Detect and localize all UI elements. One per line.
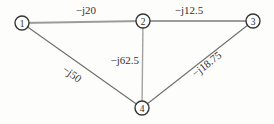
edge-label-2-3: −j12.5 bbox=[175, 4, 204, 16]
network-diagram: 1 2 3 4 −j20 −j12.5 −j62.5 −j50 −j18.75 bbox=[0, 0, 274, 124]
edge-label-3-4: −j18.75 bbox=[189, 48, 224, 79]
edge-2-4 bbox=[142, 21, 143, 108]
node-label-2: 2 bbox=[141, 17, 146, 27]
node-label-1: 1 bbox=[20, 19, 25, 29]
edge-label-2-4: −j62.5 bbox=[110, 54, 139, 66]
figure-canvas: 1 2 3 4 −j20 −j12.5 −j62.5 −j50 −j18.75 bbox=[0, 0, 274, 124]
node-label-3: 3 bbox=[251, 17, 256, 27]
edge-label-1-4: −j50 bbox=[61, 63, 85, 85]
edge-1-2 bbox=[22, 21, 143, 23]
edge-label-1-2: −j20 bbox=[76, 4, 97, 16]
node-label-4: 4 bbox=[140, 104, 145, 114]
